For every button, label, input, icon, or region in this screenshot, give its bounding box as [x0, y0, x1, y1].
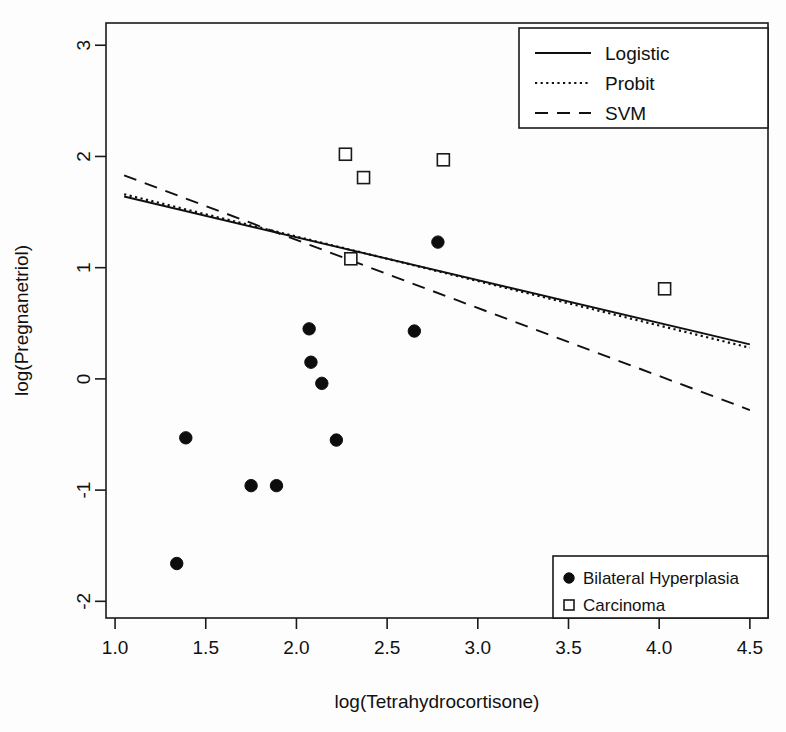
x-tick-label: 2.0 [283, 637, 309, 658]
data-point-carcinoma [345, 253, 357, 265]
data-point-carcinoma [358, 172, 370, 184]
data-point-bilateral-hyperplasia [303, 323, 315, 335]
regression-line-logistic [124, 196, 750, 344]
y-tick-label: 0 [74, 374, 95, 385]
data-point-bilateral-hyperplasia [245, 479, 257, 491]
data-point-bilateral-hyperplasia [330, 434, 342, 446]
data-point-bilateral-hyperplasia [432, 236, 444, 248]
chart-canvas: 1.01.52.02.53.03.54.04.5log(Tetrahydroco… [0, 0, 786, 732]
data-point-bilateral-hyperplasia [180, 432, 192, 444]
data-point-carcinoma [437, 154, 449, 166]
data-point-carcinoma [339, 148, 351, 160]
x-tick-label: 4.0 [646, 637, 672, 658]
legend-lines-label: Probit [605, 73, 655, 94]
x-tick-label: 2.5 [374, 637, 400, 658]
y-tick-label: -1 [74, 482, 95, 499]
scatter-plot: 1.01.52.02.53.03.54.04.5log(Tetrahydroco… [0, 0, 786, 732]
x-tick-label: 4.5 [737, 637, 763, 658]
y-tick-label: 1 [74, 262, 95, 273]
data-point-bilateral-hyperplasia [270, 479, 282, 491]
data-point-bilateral-hyperplasia [316, 377, 328, 389]
y-axis-title: log(Pregnanetriol) [11, 245, 32, 396]
y-tick-label: 2 [74, 151, 95, 162]
legend-points-label: Carcinoma [583, 596, 666, 615]
x-axis-title: log(Tetrahydrocortisone) [335, 691, 540, 712]
x-tick-label: 3.0 [465, 637, 491, 658]
x-tick-label: 1.5 [193, 637, 219, 658]
y-tick-label: -2 [74, 593, 95, 610]
y-tick-label: 3 [74, 40, 95, 51]
legend-lines-label: SVM [605, 103, 646, 124]
data-point-bilateral-hyperplasia [171, 557, 183, 569]
x-tick-label: 1.0 [102, 637, 128, 658]
legend-lines-label: Logistic [605, 43, 669, 64]
x-tick-label: 3.5 [555, 637, 581, 658]
data-point-bilateral-hyperplasia [305, 356, 317, 368]
legend-marker-filled-circle [564, 573, 574, 583]
regression-line-svm [124, 175, 750, 410]
data-point-carcinoma [659, 283, 671, 295]
legend-points-label: Bilateral Hyperplasia [583, 569, 739, 588]
legend-marker-open-square [564, 600, 574, 610]
data-point-bilateral-hyperplasia [408, 325, 420, 337]
